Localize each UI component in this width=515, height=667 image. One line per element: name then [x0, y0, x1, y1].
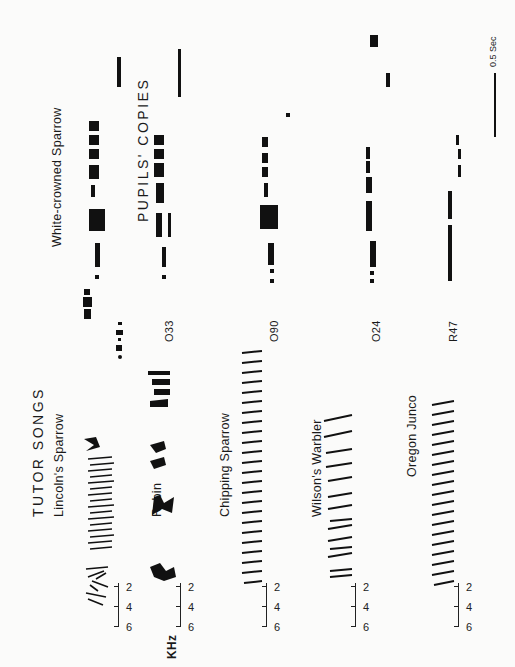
frequency-axis-lincolns: [84, 625, 128, 647]
axis-tick-label: 2: [274, 581, 280, 593]
khz-axis-label: KHz: [165, 635, 179, 659]
axis-tick: [262, 606, 267, 607]
frequency-axis: 642: [458, 583, 480, 627]
spectrogram-o90: [258, 0, 298, 287]
axis-line: [118, 583, 119, 627]
axis-tick: [114, 586, 119, 587]
axis-tick-label: 2: [188, 581, 194, 593]
axis-tick-label: 6: [126, 621, 132, 633]
axis-tick-label: 6: [466, 621, 472, 633]
frequency-axis: 642: [355, 583, 377, 627]
pupil-label-o33: O33: [163, 320, 175, 342]
axis-line: [180, 583, 181, 627]
axis-tick-label: 4: [188, 601, 194, 613]
axis-tick: [114, 606, 119, 607]
axis-tick: [114, 626, 119, 627]
pupil-label-r47: R47: [447, 321, 459, 342]
spectrogram-o33: [150, 0, 190, 287]
axis-tick-label: 4: [126, 601, 132, 613]
spectrogram-figure: KHz TUTOR SONGS Lincoln's Sparrow Robin: [0, 0, 515, 667]
axis-tick: [262, 586, 267, 587]
axis-tick: [351, 586, 356, 587]
axis-tick: [454, 626, 459, 627]
axis-tick-label: 2: [126, 581, 132, 593]
tutor-label-white-crowned-sparrow: White-crowned Sparrow: [50, 107, 64, 247]
axis-tick: [176, 626, 181, 627]
frequency-axis: 642: [118, 583, 140, 627]
scale-bar-label: 0.5 Sec: [488, 36, 498, 67]
axis-tick: [351, 606, 356, 607]
spectrogram-white-crowned-tutor: [85, 0, 125, 287]
species-label-oregon-junco: Oregon Junco: [405, 395, 419, 477]
pupil-label-o24: O24: [370, 320, 382, 342]
axis-tick: [176, 586, 181, 587]
axis-tick: [454, 586, 459, 587]
axis-tick-label: 6: [274, 621, 280, 633]
axis-tick-label: 6: [188, 621, 194, 633]
frequency-axis: 642: [266, 583, 288, 627]
axis-tick: [454, 606, 459, 607]
axis-tick-label: 4: [466, 601, 472, 613]
axis-tick: [262, 626, 267, 627]
axis-tick: [351, 626, 356, 627]
species-label-chipping-sparrow: Chipping Sparrow: [218, 413, 232, 517]
axis-tick-label: 4: [274, 601, 280, 613]
frequency-axis: 642: [180, 583, 202, 627]
axis-tick: [176, 606, 181, 607]
pupils-copies-title: PUPILS' COPIES: [135, 78, 151, 222]
axis-tick-label: 2: [466, 581, 472, 593]
pupil-label-o90: O90: [268, 320, 280, 342]
axis-tick-label: 6: [363, 621, 369, 633]
tutor-songs-title: TUTOR SONGS: [30, 387, 46, 517]
axis-tick-label: 2: [363, 581, 369, 593]
axis-line: [355, 583, 356, 627]
time-scale-bar: [494, 73, 496, 137]
axis-line: [458, 583, 459, 627]
spectrogram-o24: [360, 0, 400, 287]
species-label-lincolns-sparrow: Lincoln's Sparrow: [52, 414, 66, 517]
axis-tick-label: 4: [363, 601, 369, 613]
spectrogram-r47: [438, 0, 478, 287]
axis-line: [266, 583, 267, 627]
figure-page: KHz TUTOR SONGS Lincoln's Sparrow Robin: [0, 0, 515, 667]
